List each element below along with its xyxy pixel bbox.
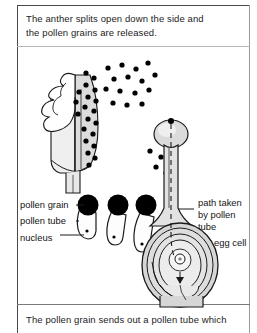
nucleus-3 bbox=[140, 242, 143, 245]
germinating-grain-3 bbox=[134, 195, 157, 253]
label-nucleus: nucleus bbox=[20, 232, 53, 243]
germinating-grain-2 bbox=[107, 195, 129, 246]
label-path-taken-line1: path taken bbox=[198, 197, 242, 208]
germinating-pollen-grains bbox=[77, 195, 156, 253]
anther-group bbox=[42, 73, 98, 193]
divider-below-diagram bbox=[17, 304, 250, 305]
anther-split-curl bbox=[42, 73, 75, 131]
label-path-taken-line3: tube bbox=[198, 221, 216, 232]
nucleus-1 bbox=[85, 229, 88, 232]
frame-border-top bbox=[17, 5, 250, 6]
stigma-highlight bbox=[156, 267, 176, 283]
pollen-grain-3 bbox=[136, 195, 157, 216]
pollen-grain-2 bbox=[108, 195, 129, 216]
caption-bottom: The pollen grain sends out a pollen tube… bbox=[26, 313, 241, 327]
label-pollen-grain: pollen grain bbox=[20, 199, 68, 210]
label-egg-cell: egg cell bbox=[214, 237, 246, 248]
figure-page: The anther splits open down the side and… bbox=[0, 0, 257, 333]
nucleus-2 bbox=[112, 235, 115, 238]
germinating-grain-1 bbox=[77, 195, 98, 240]
left-label-group: pollen grain pollen tube nucleus bbox=[20, 199, 84, 243]
egg-cell-label-group: egg cell bbox=[181, 237, 246, 248]
label-pollen-tube: pollen tube bbox=[20, 215, 66, 226]
path-taken-label-group: path taken by pollen tube bbox=[179, 197, 242, 232]
fertilisation-diagram: pollen grain pollen tube nucleus path ta… bbox=[18, 47, 250, 304]
pollen-tube-3 bbox=[134, 213, 154, 252]
label-path-taken-line2: by pollen bbox=[198, 209, 236, 220]
pollen-tube-2 bbox=[107, 211, 126, 245]
caption-top: The anther splits open down the side and… bbox=[26, 12, 241, 39]
